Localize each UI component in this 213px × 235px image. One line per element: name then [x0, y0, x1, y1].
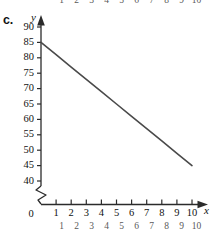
- x-tick-label: 1: [48, 208, 64, 219]
- y-tick-label: 90: [8, 22, 34, 33]
- y-tick-label: 70: [8, 83, 34, 94]
- neighbor-bottom-tick: 4: [99, 221, 114, 230]
- neighbor-bottom-tick: 10: [189, 221, 204, 230]
- neighbor-bottom-tick: 8: [159, 221, 174, 230]
- neighbor-bottom-tick: 2: [69, 221, 84, 230]
- x-tick-label: 5: [109, 208, 125, 219]
- x-tick-label: 8: [154, 208, 170, 219]
- x-tick-label: 7: [139, 208, 155, 219]
- neighbor-bottom-tick: 7: [144, 221, 159, 230]
- x-tick-label: 2: [63, 208, 79, 219]
- neighbor-bottom-tick: 3: [84, 221, 99, 230]
- y-axis-break-symbol: [36, 186, 46, 204]
- x-tick-label: 6: [124, 208, 140, 219]
- x-tick-label: 3: [78, 208, 94, 219]
- data-series-line: [41, 42, 192, 165]
- y-tick-label: 85: [8, 37, 34, 48]
- y-axis-arrowhead: [37, 15, 45, 26]
- neighbor-bottom-tick: 1: [54, 221, 69, 230]
- y-tick-label: 80: [8, 52, 34, 63]
- y-tick-label: 50: [8, 145, 34, 156]
- x-tick-label: 4: [93, 208, 109, 219]
- figure-panel-c: 12345678910 c. y x 0 4045505560657075808…: [0, 0, 213, 235]
- y-tick-label: 55: [8, 129, 34, 140]
- x-tick-label: 9: [169, 208, 185, 219]
- y-tick-label: 65: [8, 99, 34, 110]
- y-tick-label: 40: [8, 176, 34, 187]
- y-tick-label: 75: [8, 68, 34, 79]
- neighbor-figure-bottom-tick-row: 12345678910: [54, 221, 204, 230]
- y-tick-label: 60: [8, 114, 34, 125]
- x-tick-label: 10: [184, 208, 200, 219]
- neighbor-bottom-tick: 5: [114, 221, 129, 230]
- neighbor-bottom-tick: 9: [174, 221, 189, 230]
- neighbor-bottom-text: [2, 230, 213, 235]
- x-tick-marks: [56, 200, 192, 205]
- y-tick-label: 45: [8, 160, 34, 171]
- neighbor-bottom-tick: 6: [129, 221, 144, 230]
